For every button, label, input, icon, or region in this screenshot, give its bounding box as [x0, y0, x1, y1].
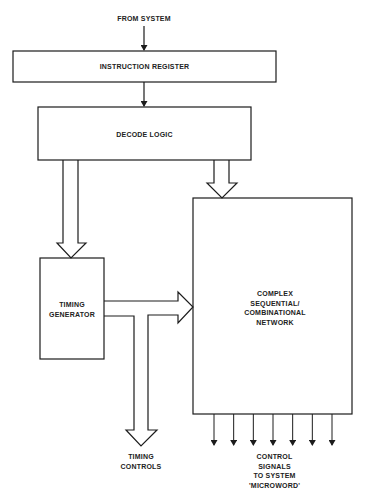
- decode-to-timing-bus-arrow: [57, 160, 86, 258]
- timing-bus-arrow: [104, 292, 193, 446]
- complex-network-label: COMPLEX SEQUENTIAL/ COMBINATIONAL NETWOR…: [215, 289, 335, 327]
- diagram-svg: [0, 0, 367, 500]
- from-system-label: FROM SYSTEM: [104, 14, 184, 24]
- decode-to-network-bus-arrow: [207, 160, 237, 198]
- diagram-canvas: FROM SYSTEM INSTRUCTION REGISTER DECODE …: [0, 0, 367, 500]
- instruction-register-label: INSTRUCTION REGISTER: [13, 62, 276, 72]
- decode-logic-label: DECODE LOGIC: [38, 130, 251, 140]
- timing-generator-label: TIMING GENERATOR: [40, 300, 104, 319]
- control-signals-label: CONTROL SIGNALS TO SYSTEM 'MICROWORD': [232, 452, 317, 490]
- timing-controls-label: TIMING CONTROLS: [106, 452, 176, 471]
